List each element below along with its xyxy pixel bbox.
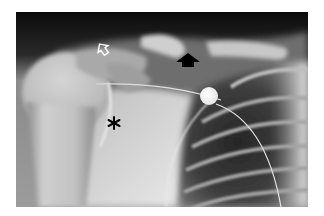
xray-illustration	[16, 12, 308, 207]
xray-radiograph	[16, 12, 308, 207]
image-canvas	[0, 0, 324, 216]
round-opacity-marker	[200, 87, 218, 105]
